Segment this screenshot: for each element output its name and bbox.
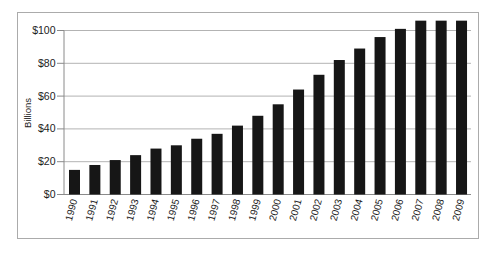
bar-2000 <box>273 104 284 194</box>
bar-2007 <box>415 21 426 195</box>
y-axis-tick-label-40: $40 <box>38 122 56 134</box>
bar-2008 <box>436 21 447 195</box>
bar-1996 <box>191 139 202 195</box>
bar-2005 <box>375 37 386 194</box>
y-axis-tick-label-100: $100 <box>32 24 56 36</box>
y-axis-tick-label-60: $60 <box>38 90 56 102</box>
bar-1990 <box>69 170 80 195</box>
y-axis-title: Billions <box>22 98 33 128</box>
bar-2003 <box>334 60 345 194</box>
y-axis-tick-label-20: $20 <box>38 155 56 167</box>
bar-chart: $0$20$40$60$80$1001990199119921993199419… <box>0 0 489 254</box>
bar-1991 <box>89 165 100 195</box>
bar-2001 <box>293 90 304 195</box>
y-axis-tick-label-0: $0 <box>44 188 56 200</box>
y-axis-tick-label-80: $80 <box>38 57 56 69</box>
bar-1994 <box>150 149 161 195</box>
bar-1998 <box>232 126 243 195</box>
bar-2006 <box>395 29 406 195</box>
bar-1999 <box>252 116 263 195</box>
bar-2009 <box>456 21 467 195</box>
bar-1993 <box>130 155 141 194</box>
bar-2004 <box>354 49 365 195</box>
bar-1995 <box>171 145 182 194</box>
bar-1997 <box>212 134 223 195</box>
bar-1992 <box>110 160 121 194</box>
chart-canvas: $0$20$40$60$80$1001990199119921993199419… <box>0 0 489 254</box>
bar-2002 <box>313 75 324 195</box>
